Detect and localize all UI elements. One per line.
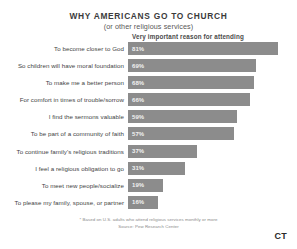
bar-category-label: To please my family, spouse, or partner bbox=[0, 199, 128, 206]
bar-category-label: I feel a religious obligation to go bbox=[0, 165, 128, 172]
footnotes: * Based on U.S. adults who attend religi… bbox=[0, 216, 297, 230]
bar: 81% bbox=[128, 42, 278, 55]
bar-category-label: To make me a better person bbox=[0, 79, 128, 86]
bar-value-label: 37% bbox=[132, 148, 144, 154]
bar-value-label: 59% bbox=[132, 114, 144, 120]
bar-value-label: 31% bbox=[132, 165, 144, 171]
bar-track: 57% bbox=[128, 127, 297, 140]
bar-row: To be part of a community of faith57% bbox=[0, 127, 297, 140]
bar-value-label: 68% bbox=[132, 80, 144, 86]
bar-row: To meet new people/socialize19% bbox=[0, 179, 297, 192]
bar-value-label: 57% bbox=[132, 131, 144, 137]
bar-value-label: 69% bbox=[132, 63, 144, 69]
title-block: WHY AMERICANS GO TO CHURCH (or other rel… bbox=[0, 0, 297, 32]
bar-value-label: 66% bbox=[132, 97, 144, 103]
bar: 37% bbox=[128, 145, 197, 158]
bar-track: 69% bbox=[128, 59, 297, 72]
bar-category-label: To be part of a community of faith bbox=[0, 130, 128, 137]
bar: 57% bbox=[128, 127, 234, 140]
bar: 66% bbox=[128, 93, 250, 106]
source-text: Source: Pew Research Center bbox=[0, 223, 297, 230]
bar-category-label: I find the sermons valuable bbox=[0, 113, 128, 120]
bar-row: So children will have moral foundation69… bbox=[0, 59, 297, 72]
bar: 59% bbox=[128, 110, 237, 123]
bar-track: 66% bbox=[128, 93, 297, 106]
bar-row: To please my family, spouse, or partner1… bbox=[0, 196, 297, 209]
bar-row: For comfort in times of trouble/sorrow66… bbox=[0, 93, 297, 106]
page-title: WHY AMERICANS GO TO CHURCH bbox=[0, 11, 297, 22]
bar-rows: To become closer to God81%So children wi… bbox=[0, 42, 297, 213]
chart-subtitle: (or other religious services) bbox=[0, 22, 297, 32]
bar-row: To make me a better person68% bbox=[0, 76, 297, 89]
footnote-text: * Based on U.S. adults who attend religi… bbox=[0, 216, 297, 223]
bar: 68% bbox=[128, 76, 254, 89]
bar: 69% bbox=[128, 59, 256, 72]
bar-category-label: To become closer to God bbox=[0, 45, 128, 52]
bar: 16% bbox=[128, 196, 158, 209]
bar-track: 31% bbox=[128, 162, 297, 175]
bar-row: I find the sermons valuable59% bbox=[0, 110, 297, 123]
bar-category-label: To continue family's religious tradition… bbox=[0, 148, 128, 155]
bar-track: 59% bbox=[128, 110, 297, 123]
bar-track: 68% bbox=[128, 76, 297, 89]
bar-row: To become closer to God81% bbox=[0, 42, 297, 55]
bar-row: To continue family's religious tradition… bbox=[0, 145, 297, 158]
ct-logo: CT bbox=[274, 231, 287, 241]
bar: 31% bbox=[128, 162, 185, 175]
bar-value-label: 16% bbox=[132, 199, 144, 205]
bar-row: I feel a religious obligation to go31% bbox=[0, 162, 297, 175]
bar-track: 19% bbox=[128, 179, 297, 192]
bar-value-label: 81% bbox=[132, 46, 144, 52]
bar-track: 81% bbox=[128, 42, 297, 55]
bar-track: 16% bbox=[128, 196, 297, 209]
bar-category-label: So children will have moral foundation bbox=[0, 62, 128, 69]
bar-category-label: To meet new people/socialize bbox=[0, 182, 128, 189]
bar-category-label: For comfort in times of trouble/sorrow bbox=[0, 96, 128, 103]
column-header: Very important reason for attending bbox=[132, 33, 244, 40]
bar-track: 37% bbox=[128, 145, 297, 158]
chart-container: WHY AMERICANS GO TO CHURCH (or other rel… bbox=[0, 0, 297, 249]
bar: 19% bbox=[128, 179, 163, 192]
bar-value-label: 19% bbox=[132, 182, 144, 188]
